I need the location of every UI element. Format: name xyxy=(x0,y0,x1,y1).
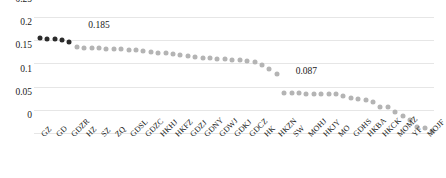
gridline xyxy=(34,40,434,41)
data-point xyxy=(245,58,250,63)
data-point xyxy=(171,52,176,57)
data-point xyxy=(385,105,390,110)
y-tick-label: 0.15 xyxy=(0,42,32,52)
data-point xyxy=(274,72,279,77)
data-point xyxy=(326,92,331,97)
data-point xyxy=(52,37,57,42)
data-point xyxy=(119,47,124,52)
data-point xyxy=(400,114,405,119)
gridline xyxy=(34,63,434,64)
gridline xyxy=(34,87,434,88)
data-point xyxy=(215,56,220,61)
data-point xyxy=(341,93,346,98)
data-point xyxy=(74,45,79,50)
data-point xyxy=(319,91,324,96)
data-point xyxy=(185,53,190,58)
y-tick-label: 0.05 xyxy=(0,88,32,98)
plot-area: 0.1850.087 xyxy=(34,17,434,133)
data-label: 0.185 xyxy=(88,21,109,31)
data-point xyxy=(289,91,294,96)
data-point xyxy=(126,47,131,52)
data-point xyxy=(67,40,72,45)
data-point xyxy=(178,53,183,58)
data-point xyxy=(104,46,109,51)
data-label: 0.087 xyxy=(296,67,317,77)
data-point xyxy=(282,90,287,95)
data-point xyxy=(208,56,213,61)
y-tick-label: 0 xyxy=(0,111,32,121)
data-point xyxy=(156,50,161,55)
data-point xyxy=(222,57,227,62)
data-point xyxy=(371,100,376,105)
gridline xyxy=(34,110,434,111)
data-point xyxy=(141,49,146,54)
data-point xyxy=(259,62,264,67)
data-point xyxy=(163,51,168,56)
data-point xyxy=(59,37,64,42)
y-tick-label: 0.2 xyxy=(0,18,32,28)
data-point xyxy=(311,91,316,96)
data-point xyxy=(348,95,353,100)
data-point xyxy=(134,48,139,53)
data-point xyxy=(82,45,87,50)
gridline xyxy=(34,17,434,18)
data-point xyxy=(111,47,116,52)
data-point xyxy=(200,55,205,60)
data-point xyxy=(45,36,50,41)
data-point xyxy=(378,105,383,110)
data-point xyxy=(356,96,361,101)
data-point xyxy=(304,91,309,96)
data-point xyxy=(267,67,272,72)
data-point xyxy=(252,60,257,65)
y-tick-label: 0.25 xyxy=(0,0,32,5)
data-point xyxy=(89,45,94,50)
data-point xyxy=(393,109,398,114)
data-point xyxy=(193,55,198,60)
x-axis: GZGDGDZRHZSZZQGDSLGDZCHKHJHKFZGDZJGDNYGD… xyxy=(34,133,434,178)
data-point xyxy=(363,97,368,102)
y-axis: 00.050.10.150.20.25 xyxy=(0,0,32,116)
data-point xyxy=(96,46,101,51)
data-point xyxy=(296,91,301,96)
data-point xyxy=(237,58,242,63)
data-point xyxy=(230,57,235,62)
y-tick-label: 0.1 xyxy=(0,65,32,75)
data-point xyxy=(37,35,42,40)
x-tick-label: SZ xyxy=(100,126,112,138)
data-point xyxy=(148,49,153,54)
data-point xyxy=(334,92,339,97)
